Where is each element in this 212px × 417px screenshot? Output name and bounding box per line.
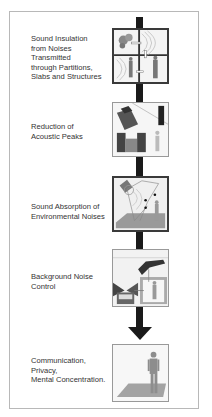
person-standing-on-floor-icon — [112, 344, 169, 402]
down-arrow-icon — [128, 327, 152, 340]
step-label-sound-insulation: Sound Insulation from Noises Transmitted… — [31, 34, 111, 82]
step-label-background-noise: Background Noise Control — [31, 272, 111, 291]
step-label-acoustic-peaks: Reduction of Acoustic Peaks — [31, 122, 111, 141]
rooms-with-sound-transmission-icon — [112, 28, 169, 84]
airplane-and-vehicle-noise-icon — [112, 249, 169, 307]
room-reflections-with-listener-icon — [112, 176, 169, 232]
spine-segment — [136, 231, 143, 250]
arrow-shaft — [136, 306, 143, 328]
step-label-sound-absorption: Sound Absorption of Environmental Noises — [31, 202, 111, 221]
spine-segment — [136, 156, 143, 177]
spine-segment — [136, 82, 143, 103]
step-label-communication: Communication, Privacy, Mental Concentra… — [31, 356, 111, 385]
telephone-and-stereo-speakers-icon — [112, 102, 169, 157]
